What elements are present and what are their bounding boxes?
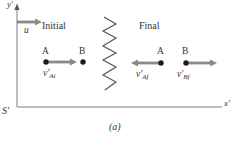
velocity-a-final-label: v′Af <box>136 70 149 81</box>
velocity-b-final-label: v′Bf <box>177 70 190 81</box>
velocity-a-initial-subscript: Ai <box>49 72 55 80</box>
particle-a-final-dot <box>158 60 163 65</box>
particle-a-final-label: A <box>157 47 164 57</box>
frame-velocity-label: u <box>24 26 29 36</box>
initial-section-title: Initial <box>42 21 66 31</box>
velocity-a-initial-label: v′Ai <box>43 69 56 80</box>
particle-b-initial-label: B <box>79 47 85 57</box>
particle-a-initial-label: A <box>42 47 49 57</box>
velocity-arrow-a-initial-head-icon <box>70 58 77 65</box>
particle-b-final-label: B <box>182 47 188 57</box>
velocity-b-final-subscript: Bf <box>183 73 189 81</box>
y-axis-label: y′ <box>7 0 13 9</box>
particle-b-initial-dot <box>80 59 85 64</box>
x-axis-label: x′ <box>224 99 230 108</box>
physics-frame-diagram: y′ x′ S′ u Initial Final A B A B v′Ai v′… <box>0 0 238 148</box>
particle-a-initial-dot <box>43 59 48 64</box>
figure-caption: (a) <box>109 122 121 132</box>
velocity-arrow-a-final-head-icon <box>131 59 138 66</box>
y-axis-arrowhead-icon <box>14 4 19 11</box>
velocity-arrow-b-final-head-icon <box>210 59 217 66</box>
frame-label: S′ <box>2 106 9 116</box>
zigzag-break-line <box>103 17 116 90</box>
frame-velocity-arrowhead-icon <box>35 18 42 25</box>
final-section-title: Final <box>139 21 160 31</box>
velocity-a-final-subscript: Af <box>142 73 148 81</box>
particle-b-final-dot <box>183 60 188 65</box>
